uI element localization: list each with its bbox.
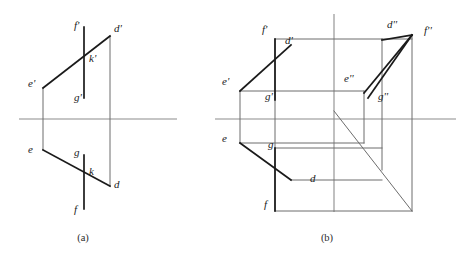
point-label-e-prime: e' (28, 77, 36, 89)
point-label-k-prime: k' (89, 52, 97, 64)
point-label-e-b: e (222, 132, 227, 144)
point-label-d-prime: d' (114, 22, 123, 34)
projection-drawing: f'd'k'e'g'egkdf f'd'd''f''e'e''g'g''egdf… (0, 0, 456, 256)
point-label-g-b: g (268, 138, 274, 150)
point-label-d-b: d (310, 172, 316, 184)
caption-a: (a) (77, 232, 89, 244)
point-label-g-prime: g' (74, 91, 83, 103)
point-label-g: g (74, 146, 80, 158)
figure-container: f'd'k'e'g'egkdf f'd'd''f''e'e''g'g''egdf… (0, 0, 456, 256)
point-label-e-double-b: e'' (344, 72, 354, 84)
point-label-d-double-b: d'' (387, 18, 398, 30)
caption-b: (b) (321, 232, 334, 244)
point-label-f-prime: f' (74, 19, 80, 31)
point-label-f-double-b: f'' (424, 24, 432, 36)
point-label-d: d (114, 178, 120, 190)
point-label-d-prime-b: d' (285, 34, 294, 46)
point-label-g-prime-b: g' (265, 90, 274, 102)
point-label-f-prime-b: f' (262, 23, 268, 35)
point-label-e: e (28, 143, 33, 155)
point-label-e-prime-b: e' (222, 75, 230, 87)
point-label-g-double-b: g'' (378, 90, 389, 102)
